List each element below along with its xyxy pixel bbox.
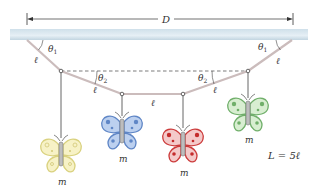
string (27, 40, 292, 94)
angle-label-theta2-left: θ2 (98, 73, 107, 84)
segment-label-4: ℓ (213, 85, 217, 95)
mass-label-4: m (245, 135, 254, 145)
arrowhead-right-icon (287, 17, 293, 21)
segment-label-2: ℓ (93, 85, 97, 95)
diagram-canvas: D θ1 θ1 θ2 θ2 ℓ ℓ ℓ ℓ ℓ (0, 0, 322, 188)
mass-label-2: m (119, 154, 128, 164)
mass-label-1: m (58, 177, 67, 187)
butterfly-green (228, 94, 268, 131)
angle-arc-theta1-left (39, 40, 44, 50)
angle-arc-theta2-left (95, 71, 97, 84)
arrowhead-left-icon (27, 17, 33, 21)
segment-label-3: ℓ (151, 98, 155, 108)
mass-label-3: m (180, 168, 189, 178)
dimension-label-D: D (161, 14, 170, 25)
angle-label-theta2-right: θ2 (198, 73, 207, 84)
butterfly-yellow (41, 135, 81, 172)
angle-label-theta1-right: θ1 (258, 42, 267, 53)
segment-label-1: ℓ (34, 55, 38, 65)
knots (59, 69, 250, 96)
angle-label-theta1-left: θ1 (48, 44, 57, 55)
constraint-label: L = 5ℓ (267, 150, 300, 161)
butterfly-red (163, 125, 203, 162)
butterfly-blue (102, 112, 142, 149)
segment-label-5: ℓ (276, 56, 280, 66)
ceiling-bar (10, 29, 308, 40)
dimension-arrow-D: D (27, 13, 293, 25)
